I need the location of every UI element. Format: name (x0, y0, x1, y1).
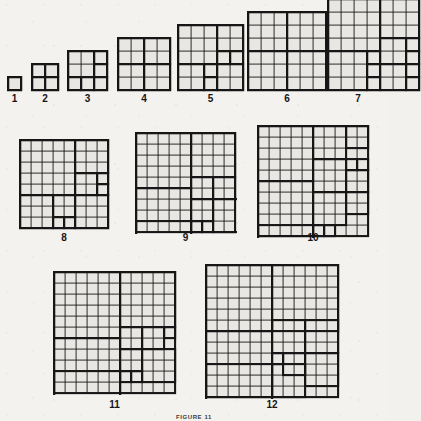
squared-square-9 (134, 131, 237, 234)
square-label-12: 12 (206, 399, 338, 410)
square-label-7: 7 (328, 93, 388, 104)
square-label-9: 9 (136, 232, 235, 243)
square-label-1: 1 (8, 93, 21, 104)
figure-caption: FIGURE 11 (0, 414, 388, 420)
squared-square-7 (326, 0, 421, 92)
squared-square-5 (176, 23, 245, 92)
squared-square-3 (66, 49, 109, 92)
square-label-5: 5 (178, 93, 243, 104)
square-label-11: 11 (54, 399, 175, 410)
square-label-10: 10 (258, 232, 368, 243)
squared-square-6 (246, 10, 328, 92)
square-label-4: 4 (118, 93, 170, 104)
squared-square-1 (6, 75, 23, 92)
square-label-6: 6 (248, 93, 326, 104)
square-label-2: 2 (32, 93, 58, 104)
squared-square-11 (52, 270, 177, 395)
square-label-3: 3 (68, 93, 107, 104)
squared-square-10 (256, 124, 370, 238)
square-label-8: 8 (20, 232, 108, 243)
squared-square-12 (204, 263, 340, 399)
squared-square-4 (116, 36, 172, 92)
squared-square-8 (18, 138, 110, 230)
squared-square-2 (30, 62, 60, 92)
